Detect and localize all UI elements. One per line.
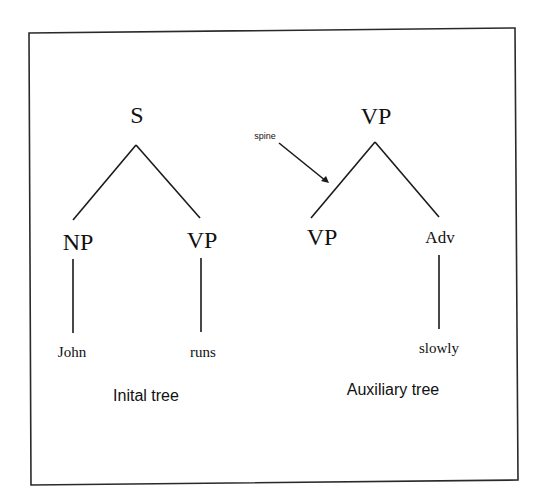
auxiliary-tree: VP VP Adv slowly Auxiliary tree spine [254,103,459,398]
spine-annotation-label: spine [254,131,276,141]
edge-vp-adv [375,142,439,217]
auxiliary-tree-caption: Auxiliary tree [347,381,440,398]
diagram-frame [29,28,518,485]
edge-s-np [73,145,136,220]
initial-np-label: NP [63,229,94,255]
edge-vp-vp-spine [311,142,375,218]
auxiliary-foot-vp-label: VP [307,224,338,250]
leaf-runs: runs [190,344,216,360]
leaf-slowly: slowly [419,340,460,356]
spine-arrow-line [279,143,326,181]
initial-root-label: S [130,102,143,128]
tag-diagram: S NP VP John runs Inital tree VP VP Adv … [0,0,541,496]
initial-tree-caption: Inital tree [113,387,179,404]
edge-s-vp [136,145,200,218]
initial-tree: S NP VP John runs Inital tree [58,102,218,404]
initial-vp-label: VP [187,227,218,253]
auxiliary-root-label: VP [361,103,392,129]
leaf-john: John [58,344,87,360]
auxiliary-adv-label: Adv [425,228,455,247]
